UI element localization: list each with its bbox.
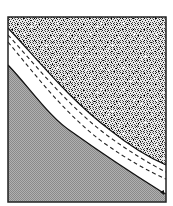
- diagram: [0, 0, 173, 206]
